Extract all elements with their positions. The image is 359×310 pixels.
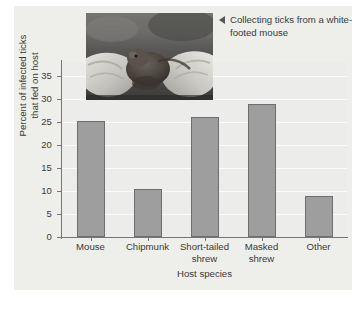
y-axis-tick [57, 168, 61, 169]
y-axis-tick [57, 214, 61, 215]
y-axis-title-line2: that fed on host [28, 52, 39, 118]
left-triangle-icon [219, 16, 225, 24]
bar-other [305, 196, 333, 237]
x-axis-tick [148, 237, 149, 241]
y-axis-tick [57, 99, 61, 100]
x-axis-tick [262, 237, 263, 241]
y-axis-line [61, 60, 62, 239]
y-axis-tick-label: 15 [26, 163, 52, 173]
bar-short-tailed-shrew [191, 117, 219, 237]
x-axis-tick [91, 237, 92, 241]
bar-masked-shrew [248, 104, 276, 237]
figure-container: 05101520253035 Percent of infected ticks… [0, 0, 359, 310]
bar-mouse [77, 121, 105, 238]
y-axis-tick [57, 122, 61, 123]
inset-photo [86, 13, 213, 100]
x-axis-label-masked-shrew: Maskedshrew [233, 241, 290, 264]
y-axis-tick [57, 76, 61, 77]
y-axis-title-line1: Percent of infected ticks [17, 35, 28, 137]
y-axis-title: Percent of infected ticks that fed on ho… [17, 11, 40, 161]
photo-caption-text: Collecting ticks from a white-footed mou… [230, 14, 359, 39]
y-axis-tick [57, 191, 61, 192]
bar-chipmunk [134, 189, 162, 237]
y-axis-tick [57, 237, 61, 238]
y-axis-tick-label: 0 [26, 232, 52, 242]
x-axis-label-chipmunk: Chipmunk [119, 241, 176, 253]
x-axis-label-other: Other [290, 241, 347, 253]
y-axis-tick-label: 10 [26, 186, 52, 196]
x-axis-title: Host species [62, 268, 347, 279]
photo-image [86, 13, 213, 100]
photo-caption: Collecting ticks from a white-footed mou… [219, 14, 359, 39]
x-axis-label-mouse: Mouse [62, 241, 119, 253]
y-axis-tick-label: 5 [26, 209, 52, 219]
y-axis-tick [57, 145, 61, 146]
x-axis-label-short-tailed-shrew: Short-tailedshrew [176, 241, 233, 264]
x-axis-tick [205, 237, 206, 241]
x-axis-tick [319, 237, 320, 241]
